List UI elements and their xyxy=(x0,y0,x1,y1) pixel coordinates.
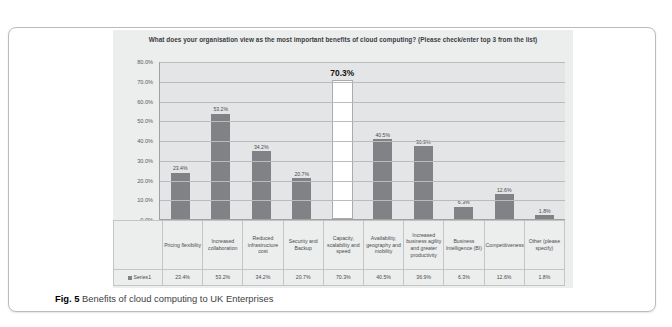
legend-series-label: Series1 xyxy=(133,274,151,280)
bar-value-label: 1.8% xyxy=(539,208,551,214)
y-axis-tick-label: 70.0% xyxy=(137,79,153,85)
caption-text: Benefits of cloud computing to UK Enterp… xyxy=(82,293,273,304)
table-value-cell: 6.3% xyxy=(444,270,484,286)
table-value-cell: 12.6% xyxy=(484,270,524,286)
gridline xyxy=(160,102,565,103)
bar: 20.7% xyxy=(292,178,311,219)
table-category-cell: Availability, geography and mobility xyxy=(363,221,403,270)
gridline xyxy=(160,141,565,142)
table-category-cell: Increased business agility and greater p… xyxy=(404,221,444,270)
table-value-cell: 23.4% xyxy=(163,270,203,286)
bar: 12.6% xyxy=(495,194,514,219)
table-category-cell: Competitiveness xyxy=(484,221,524,270)
table-value-cell: 20.7% xyxy=(283,270,323,286)
table-value-cell: 36.9% xyxy=(404,270,444,286)
y-axis-tick-label: 30.0% xyxy=(137,158,153,164)
y-axis-tick-label: 80.0% xyxy=(137,59,153,65)
table-category-cell: Business Intelligence (BI) xyxy=(444,221,484,270)
chart-image: What does your organisation view as the … xyxy=(113,30,573,288)
figure-container: What does your organisation view as the … xyxy=(8,27,656,312)
y-axis-tick-label: 50.0% xyxy=(137,118,153,124)
y-axis-tick-label: 10.0% xyxy=(137,197,153,203)
gridline xyxy=(160,181,565,182)
gridline xyxy=(160,62,565,63)
table-value-cell: 53.2% xyxy=(203,270,243,286)
figure-caption: Fig. 5 Benefits of cloud computing to UK… xyxy=(55,293,273,304)
gridline xyxy=(160,121,565,122)
legend-swatch-icon xyxy=(128,276,132,280)
table-category-cell: Other (please specify) xyxy=(524,221,564,270)
bar-value-label: 70.3% xyxy=(330,68,354,78)
bar-value-label: 40.5% xyxy=(375,132,390,138)
table-row-categories: Pricing flexibilityIncreased collaborati… xyxy=(114,221,565,270)
table-category-cell: Capacity, scalability and speed xyxy=(323,221,363,270)
plot-area: 23.4%53.2%34.2%20.7%70.3%40.5%36.9%6.3%1… xyxy=(159,62,565,220)
table-value-cell: 70.3% xyxy=(323,270,363,286)
data-table: Pricing flexibilityIncreased collaborati… xyxy=(113,220,565,286)
y-axis-tick-label: 20.0% xyxy=(137,178,153,184)
gridline xyxy=(160,82,565,83)
table-category-cell: Pricing flexibility xyxy=(163,221,203,270)
legend-series-cell: Series1 xyxy=(114,270,163,286)
gridline xyxy=(160,200,565,201)
table-corner-cell xyxy=(114,221,163,270)
y-axis: 80.0%70.0%60.0%50.0%40.0%30.0%20.0%10.0%… xyxy=(113,62,157,220)
bar: 36.9% xyxy=(414,146,433,219)
bar-value-label: 12.6% xyxy=(497,187,512,193)
table-value-cell: 1.8% xyxy=(524,270,564,286)
caption-label: Fig. 5 xyxy=(55,293,79,304)
bar-value-label: 20.7% xyxy=(294,171,309,177)
bar: 1.8% xyxy=(535,215,554,219)
table-value-cell: 34.2% xyxy=(243,270,283,286)
table-category-cell: Reduced infrastructure cost xyxy=(243,221,283,270)
bar: 53.2% xyxy=(211,114,230,219)
bar-value-label: 34.2% xyxy=(254,144,269,150)
table-row-values: Series1 23.4%53.2%34.2%20.7%70.3%40.5%36… xyxy=(114,270,565,286)
y-axis-tick-label: 60.0% xyxy=(137,99,153,105)
table-category-cell: Security and Backup xyxy=(283,221,323,270)
gridline xyxy=(160,161,565,162)
bar: 40.5% xyxy=(373,139,392,219)
table-value-cell: 40.5% xyxy=(363,270,403,286)
bar-value-label: 53.2% xyxy=(213,106,228,112)
bar: 6.3% xyxy=(454,207,473,219)
chart-title: What does your organisation view as the … xyxy=(127,35,559,45)
y-axis-tick-label: 40.0% xyxy=(137,138,153,144)
table-category-cell: Increased collaboration xyxy=(203,221,243,270)
bar-value-label: 23.4% xyxy=(173,165,188,171)
